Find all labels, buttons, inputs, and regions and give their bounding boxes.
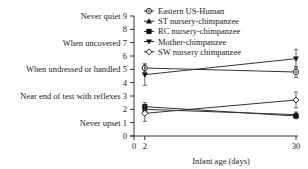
series-line	[145, 59, 296, 75]
series-sw-nursery-chimpanzee	[142, 92, 299, 121]
legend-label: Mother-chimpanzee	[158, 37, 226, 47]
legend: Eastern US-HumanST nursery-chimpanzeeRC …	[144, 6, 241, 57]
legend-label: RC nursery-chimpanzee	[158, 26, 241, 36]
square-marker-icon	[146, 29, 151, 34]
data-point-marker	[142, 72, 148, 77]
x-axis-label: Infant age (days)	[192, 156, 250, 166]
chart: Never quiet 98When uncovered 76When undr…	[0, 0, 308, 169]
diamond-open-marker-icon	[146, 49, 152, 55]
y-tick-label: Never upset 1	[80, 118, 127, 128]
y-tick-label: 6	[123, 51, 127, 61]
data-point-marker	[293, 113, 298, 118]
series-line	[145, 109, 296, 114]
y-tick-label: 0	[123, 131, 127, 141]
y-tick-label: Near end of test with reflexes 3	[20, 91, 127, 101]
y-tick-label: 2	[123, 104, 127, 114]
y-tick-label: When undressed or handled 5	[26, 64, 127, 74]
x-tick-label: 0	[132, 141, 136, 151]
legend-item: ST nursery-chimpanzee	[144, 16, 239, 26]
legend-item: SW nursery chimpanzee	[144, 47, 241, 57]
legend-label: Eastern US-Human	[158, 6, 225, 16]
data-point-marker	[293, 97, 299, 103]
y-tick-label: Never quiet 9	[81, 11, 127, 21]
x-tick-label: 2	[143, 141, 147, 151]
series-line	[145, 68, 296, 72]
y-tick-label: When uncovered 7	[63, 38, 127, 48]
x-tick-label: 30	[292, 141, 301, 151]
y-tick-label: 4	[123, 78, 128, 88]
series-rc-nursery-chimpanzee	[142, 103, 298, 119]
series-eastern-us-human	[142, 64, 298, 77]
legend-label: SW nursery chimpanzee	[158, 47, 241, 57]
legend-label: ST nursery-chimpanzee	[158, 16, 239, 26]
legend-item: Mother-chimpanzee	[144, 37, 226, 47]
y-tick-label: 8	[123, 24, 127, 34]
legend-item: Eastern US-Human	[144, 6, 225, 16]
legend-item: RC nursery-chimpanzee	[144, 26, 241, 36]
